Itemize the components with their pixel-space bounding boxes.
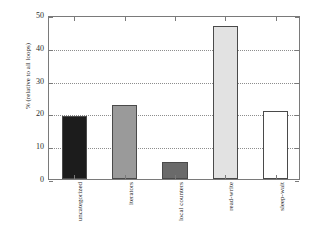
x-axis-tick-label: uncategorized xyxy=(76,182,84,221)
y-axis-tick xyxy=(295,17,299,18)
bar-uncategorized xyxy=(62,116,87,179)
x-axis-tick xyxy=(225,17,226,21)
x-axis-tick xyxy=(74,175,75,179)
gridline xyxy=(49,50,299,51)
x-axis-tick xyxy=(276,175,277,179)
x-axis-tick xyxy=(225,175,226,179)
x-axis-tick-label: local counters xyxy=(177,182,185,221)
y-axis-tick-labels: 01020304050 xyxy=(26,16,44,180)
x-axis-tick-label: sleep-wait xyxy=(278,182,286,211)
x-axis-tick xyxy=(125,175,126,179)
gridline xyxy=(49,83,299,84)
x-axis-tick xyxy=(125,17,126,21)
y-axis-tick-label: 50 xyxy=(36,12,44,20)
bar-chart-figure: % (relative to all loops) 01020304050 un… xyxy=(0,0,324,241)
x-axis-tick xyxy=(175,175,176,179)
y-axis-tick-label: 20 xyxy=(36,110,44,118)
x-axis-tick-label: read-write xyxy=(227,182,235,211)
y-axis-tick-label: 40 xyxy=(36,45,44,53)
y-axis-tick xyxy=(295,115,299,116)
y-axis-tick xyxy=(295,50,299,51)
y-axis-tick xyxy=(49,17,53,18)
y-axis-tick xyxy=(295,148,299,149)
y-axis-tick-label: 30 xyxy=(36,78,44,86)
plot-area xyxy=(48,16,300,180)
x-axis-tick-labels: uncategorizediteratorslocal countersread… xyxy=(48,182,300,241)
y-axis-tick-label: 10 xyxy=(36,143,44,151)
x-axis-tick xyxy=(276,17,277,21)
y-axis-tick xyxy=(49,50,53,51)
bar-iterators xyxy=(112,105,137,179)
x-axis-tick xyxy=(175,17,176,21)
y-axis-tick xyxy=(49,115,53,116)
x-axis-tick-label: iterators xyxy=(127,182,135,205)
bar-read-write xyxy=(213,26,238,179)
x-axis-tick xyxy=(74,17,75,21)
bar-sleep-wait xyxy=(263,111,288,179)
y-axis-tick xyxy=(49,148,53,149)
y-axis-tick xyxy=(295,83,299,84)
y-axis-tick xyxy=(49,83,53,84)
y-axis-tick-label: 0 xyxy=(40,176,44,184)
